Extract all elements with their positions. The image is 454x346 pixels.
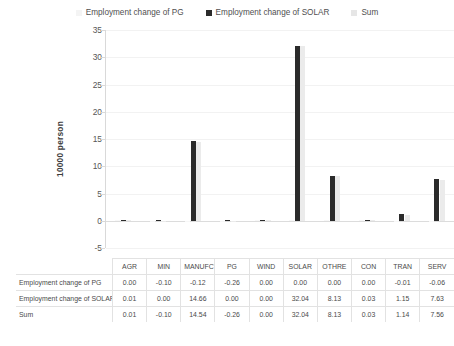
y-axis-tick-mark: [101, 221, 105, 222]
table-cell: 0.00: [249, 307, 283, 323]
bar-serv-sum: [440, 180, 445, 221]
table-cell: 8.13: [317, 307, 351, 323]
bar-othre-solar: [330, 176, 335, 220]
bar-pg-solar: [225, 220, 230, 221]
bar-agr-pg: [115, 220, 120, 221]
y-axis-tick-label: 35: [64, 25, 102, 35]
table-cell: 7.63: [420, 291, 454, 307]
table-cell: 0.01: [113, 307, 147, 323]
table-cell: -0.01: [386, 275, 420, 291]
table-cell: -0.06: [420, 275, 454, 291]
chart-container: Employment change of PG Employment chang…: [0, 0, 454, 346]
table-cell: 0.00: [215, 291, 249, 307]
bar-othre-sum: [335, 176, 340, 220]
data-table: AGR MIN MANUFCT PG WIND SOLAR OTHRE CON …: [16, 258, 454, 322]
bar-solar-solar: [295, 46, 300, 221]
bar-serv-solar: [434, 179, 439, 221]
table-header-row: AGR MIN MANUFCT PG WIND SOLAR OTHRE CON …: [16, 259, 454, 275]
table-cell: 1.15: [386, 291, 420, 307]
table-cell: 32.04: [283, 307, 317, 323]
table-col-header-serv: SERV: [420, 259, 454, 275]
table-row: Sum 0.01 -0.10 14.54 -0.26 0.00 32.04 8.…: [16, 307, 454, 323]
bar-pg-sum: [231, 221, 236, 222]
table-cell: 14.54: [181, 307, 215, 323]
bar-wind-sum: [266, 220, 271, 221]
y-axis-tick-mark: [101, 112, 105, 113]
legend-label-solar: Employment change of SOLAR: [216, 8, 330, 17]
table-header: AGR MIN MANUFCT PG WIND SOLAR OTHRE CON …: [16, 259, 454, 275]
table-cell: 0.01: [113, 291, 147, 307]
table-cell: 0.03: [351, 307, 385, 323]
y-axis-tick-mark: [101, 139, 105, 140]
table-cell: 0.03: [351, 291, 385, 307]
table-col-header-con: CON: [351, 259, 385, 275]
chart-legend: Employment change of PG Employment chang…: [0, 8, 454, 17]
table-cell: 8.13: [317, 291, 351, 307]
legend-item-employment-change-of-pg[interactable]: Employment change of PG: [76, 8, 184, 17]
legend-swatch-icon-pg: [76, 10, 82, 16]
table-row: Employment change of SOLAR 0.01 0.00 14.…: [16, 291, 454, 307]
table-cell: 14.66: [181, 291, 215, 307]
y-axis-tick-mark: [101, 248, 105, 249]
bar-othre-pg: [324, 220, 329, 221]
legend-item-employment-change-of-solar[interactable]: Employment change of SOLAR: [206, 8, 330, 17]
table-col-header-agr: AGR: [113, 259, 147, 275]
bar-solar-pg: [289, 220, 294, 221]
legend-item-sum[interactable]: Sum: [351, 8, 378, 17]
y-axis-tick-label: 10: [64, 161, 102, 171]
table-cell: -0.10: [147, 307, 181, 323]
table-row-label-pg: Employment change of PG: [16, 275, 113, 291]
table-cell: 0.00: [147, 291, 181, 307]
plot-area: 10000 person 35302520151050-5: [0, 26, 454, 258]
bar-solar-sum: [300, 46, 305, 221]
table-col-header-manufct: MANUFCT: [181, 259, 215, 275]
legend-label-pg: Employment change of PG: [86, 8, 184, 17]
bar-serv-pg: [429, 221, 434, 222]
legend-swatch-icon-sum: [351, 10, 357, 16]
bar-con-pg: [359, 220, 364, 221]
table-cell: 0.00: [249, 275, 283, 291]
table-cell: 0.00: [283, 275, 317, 291]
table-body: Employment change of PG 0.00 -0.10 -0.12…: [16, 275, 454, 323]
y-axis-tick-label: 0: [64, 216, 102, 226]
bar-tran-solar: [399, 214, 404, 220]
bar-agr-sum: [126, 220, 131, 221]
bar-tran-pg: [394, 221, 399, 222]
bar-manufct-pg: [185, 221, 190, 222]
y-axis-tick-mark: [101, 194, 105, 195]
table-col-header-min: MIN: [147, 259, 181, 275]
bar-con-solar: [365, 220, 370, 221]
table-cell: 0.00: [249, 291, 283, 307]
table-cell: -0.10: [147, 275, 181, 291]
gridline: [106, 248, 454, 249]
table-col-header-tran: TRAN: [386, 259, 420, 275]
y-axis-tick-mark: [101, 30, 105, 31]
y-axis-tick-labels: 35302520151050-5: [62, 26, 102, 258]
bar-min-solar: [156, 220, 161, 221]
bar-wind-solar: [260, 220, 265, 221]
bar-manufct-sum: [196, 142, 201, 221]
y-axis-tick-mark: [101, 85, 105, 86]
bar-series-group: [106, 30, 454, 248]
table-row-label-solar: Employment change of SOLAR: [16, 291, 113, 307]
table-cell: 0.00: [351, 275, 385, 291]
table-col-header-othre: OTHRE: [317, 259, 351, 275]
bar-tran-sum: [405, 215, 410, 221]
y-axis-tick-label: 25: [64, 80, 102, 90]
bar-wind-pg: [255, 220, 260, 221]
bar-pg-pg: [220, 221, 225, 222]
table-col-header-solar: SOLAR: [283, 259, 317, 275]
y-axis-tick-label: 30: [64, 52, 102, 62]
table-cell: -0.26: [215, 275, 249, 291]
y-axis-tick-mark: [101, 57, 105, 58]
y-axis-tick-mark: [101, 166, 105, 167]
bar-min-sum: [161, 221, 166, 222]
y-axis-tick-label: 15: [64, 134, 102, 144]
table-cell: -0.12: [181, 275, 215, 291]
table-cell: 1.14: [386, 307, 420, 323]
y-axis-tick-label: 5: [64, 189, 102, 199]
y-axis-tick-label: 20: [64, 107, 102, 117]
table-row-label-sum: Sum: [16, 307, 113, 323]
bar-min-pg: [150, 221, 155, 222]
table-cell: 32.04: [283, 291, 317, 307]
